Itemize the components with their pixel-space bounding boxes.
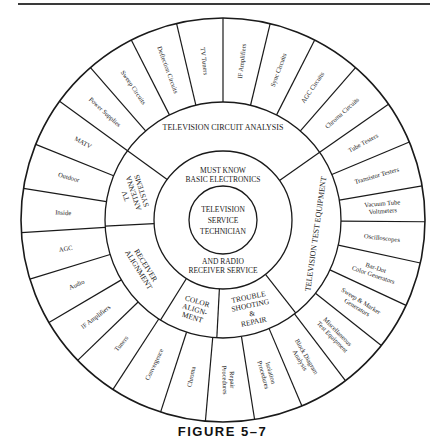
outer-item: Sweep Circuits bbox=[120, 69, 148, 106]
outer-item: IF Amplifiers bbox=[79, 303, 112, 330]
label-line: AGC Circuits bbox=[299, 70, 325, 104]
outer-divider bbox=[21, 227, 105, 232]
label-line: TELEVISION CIRCUIT ANALYSIS bbox=[163, 123, 284, 132]
outer-divider bbox=[30, 254, 110, 279]
category-receiver-alignment: RECEIVERALIGNMENT bbox=[123, 244, 162, 291]
label-line: BASIC ELECTRONICS bbox=[186, 175, 261, 184]
outer-item: Outdoor bbox=[57, 171, 81, 184]
outer-item: IF Amplifiers bbox=[236, 43, 247, 79]
outer-divider bbox=[23, 188, 106, 201]
label-line: Convergence bbox=[143, 347, 164, 381]
outer-item: Sync Circuits bbox=[269, 52, 288, 88]
category-tv-circuit-analysis: TELEVISION CIRCUIT ANALYSIS bbox=[163, 123, 284, 132]
outer-divider bbox=[113, 319, 159, 389]
label-line: Voltmeters bbox=[369, 206, 398, 215]
category-divider bbox=[265, 274, 295, 313]
outer-item: Tube Testers bbox=[347, 131, 380, 153]
label-line: Oscilloscopes bbox=[364, 232, 401, 243]
outer-item: Deflection Circuits bbox=[156, 45, 180, 94]
outer-item: Transistor Testers bbox=[354, 165, 401, 185]
outer-divider bbox=[339, 186, 422, 200]
label-line: IF Amplifiers bbox=[79, 303, 112, 330]
label-line: Outdoor bbox=[57, 171, 81, 184]
outer-item: Block DiagramAnalysis bbox=[287, 337, 320, 379]
label-line: Power Supplies bbox=[88, 95, 123, 128]
label-line: RECEIVER SERVICE bbox=[188, 266, 258, 275]
label-line: Procedures bbox=[221, 365, 229, 395]
category-color-alignment: COLORALIGN-MENT bbox=[179, 293, 212, 325]
label-line: Inside bbox=[55, 208, 71, 216]
outer-divider bbox=[251, 24, 271, 106]
outer-item: Bar-DotColor Generators bbox=[351, 257, 399, 285]
outer-item: AGC Circuits bbox=[299, 70, 325, 104]
skills-wheel-diagram: TELEVISIONSERVICETECHNICIANMUST KNOWBASI… bbox=[0, 0, 445, 440]
outer-item: Convergence bbox=[143, 347, 164, 381]
label-line: TELEVISION TEST EQUIPMENT bbox=[303, 176, 328, 292]
basic-bottom-label: AND RADIORECEIVER SERVICE bbox=[188, 257, 258, 276]
label-line: AGC bbox=[58, 244, 73, 253]
outer-item: Power Supplies bbox=[88, 95, 123, 128]
label-line: SERVICE bbox=[208, 216, 239, 225]
core-label: TELEVISIONSERVICETECHNICIAN bbox=[200, 205, 246, 236]
label-line: Chroma Circuits bbox=[323, 95, 360, 129]
label-line: AND RADIO bbox=[202, 257, 244, 266]
outer-item: Oscilloscopes bbox=[364, 232, 401, 243]
label-line: Deflection Circuits bbox=[156, 45, 180, 94]
category-divider bbox=[128, 151, 168, 180]
outer-divider bbox=[205, 338, 212, 422]
outer-item: Tuners bbox=[113, 334, 130, 353]
wheel-labels: TELEVISIONSERVICETECHNICIANMUST KNOWBASI… bbox=[55, 43, 401, 395]
outer-item: RepairProcedures bbox=[221, 365, 237, 395]
label-line: Repair bbox=[229, 371, 237, 389]
outer-item: MATV bbox=[73, 135, 93, 150]
category-tv-test-equipment: TELEVISION TEST EQUIPMENT bbox=[303, 176, 328, 292]
outer-divider bbox=[49, 280, 121, 323]
outer-item: AGC bbox=[58, 244, 73, 253]
outer-divider bbox=[177, 23, 196, 105]
outer-divider bbox=[36, 144, 114, 175]
category-trouble-shooting-repair: TROUBLESHOOTING&REPAIR bbox=[229, 288, 274, 330]
category-tv-antenna-systems: TVANTENNASYSTEMS bbox=[115, 172, 151, 215]
outer-divider bbox=[341, 221, 425, 222]
label-line: TECHNICIAN bbox=[200, 227, 246, 236]
label-line: Tuners bbox=[113, 334, 130, 353]
label-line: Audio bbox=[68, 278, 86, 291]
category-divider bbox=[280, 152, 320, 180]
outer-divider bbox=[161, 332, 187, 412]
label-line: Transistor Testers bbox=[354, 165, 401, 185]
outer-divider bbox=[277, 40, 315, 115]
outer-item: Vacuum TubeVoltmeters bbox=[364, 198, 401, 215]
label-line: IF Amplifiers bbox=[236, 43, 247, 79]
outer-item: TV Tuners bbox=[200, 47, 210, 76]
outer-item: Audio bbox=[68, 278, 86, 291]
label-line: TELEVISION bbox=[201, 205, 245, 214]
label-line: Sync Circuits bbox=[269, 52, 288, 88]
category-divider bbox=[217, 289, 220, 338]
category-divider bbox=[105, 224, 154, 227]
outer-divider bbox=[338, 245, 420, 263]
basic-top-label: MUST KNOWBASIC ELECTRONICS bbox=[186, 166, 261, 185]
label-line: Chroma bbox=[185, 366, 196, 388]
label-line: Sweep Circuits bbox=[120, 69, 148, 106]
label-line: TV Tuners bbox=[200, 47, 210, 76]
outer-item: Chroma bbox=[185, 366, 196, 388]
outer-item: Chroma Circuits bbox=[323, 95, 360, 129]
outer-item: IsolationProcedures bbox=[256, 358, 278, 390]
label-line: MUST KNOW bbox=[200, 166, 247, 175]
label-line: MATV bbox=[73, 135, 93, 150]
outer-item: Inside bbox=[55, 208, 71, 216]
label-line: Tube Testers bbox=[347, 131, 380, 153]
outer-divider bbox=[241, 337, 254, 420]
label-line: REPAIR bbox=[240, 315, 267, 329]
figure-caption: FIGURE 5–7 bbox=[0, 424, 445, 439]
